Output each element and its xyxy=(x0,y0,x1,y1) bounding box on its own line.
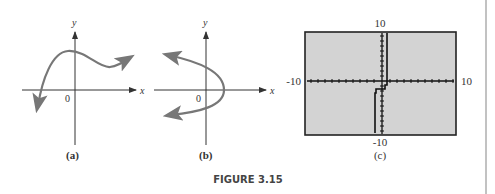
cubic-curve xyxy=(38,51,130,106)
x-axis-label-b: x xyxy=(269,85,275,96)
y-axis-label-a: y xyxy=(71,17,77,28)
curve-arrow-top xyxy=(166,55,172,57)
panel-b-graph xyxy=(154,32,266,145)
xmin-label: -10 xyxy=(286,75,301,87)
xmax-label: 10 xyxy=(461,75,473,87)
panel-label-b: (b) xyxy=(199,149,213,162)
curve-arrow-bottom xyxy=(167,115,173,116)
curve-arrow-right xyxy=(126,57,131,60)
figure-canvas: x y 0 (a) x y 0 (b) xyxy=(0,0,495,194)
origin-label-a: 0 xyxy=(65,93,70,104)
panel-label-c: (c) xyxy=(374,149,387,162)
ymin-label: -10 xyxy=(373,136,388,148)
panel-label-a: (a) xyxy=(66,149,79,162)
y-axis-label-b: y xyxy=(202,17,208,28)
screen-frame xyxy=(305,32,456,135)
panel-a-graph xyxy=(22,32,136,145)
origin-label-b: 0 xyxy=(196,93,201,104)
figure-caption: FIGURE 3.15 xyxy=(213,174,283,185)
ymax-label: 10 xyxy=(375,17,387,29)
x-axis-label-a: x xyxy=(139,85,145,96)
curve-arrow-left xyxy=(37,104,38,109)
parabola-curve xyxy=(168,55,224,115)
panel-c-calculator-screen xyxy=(305,32,456,135)
